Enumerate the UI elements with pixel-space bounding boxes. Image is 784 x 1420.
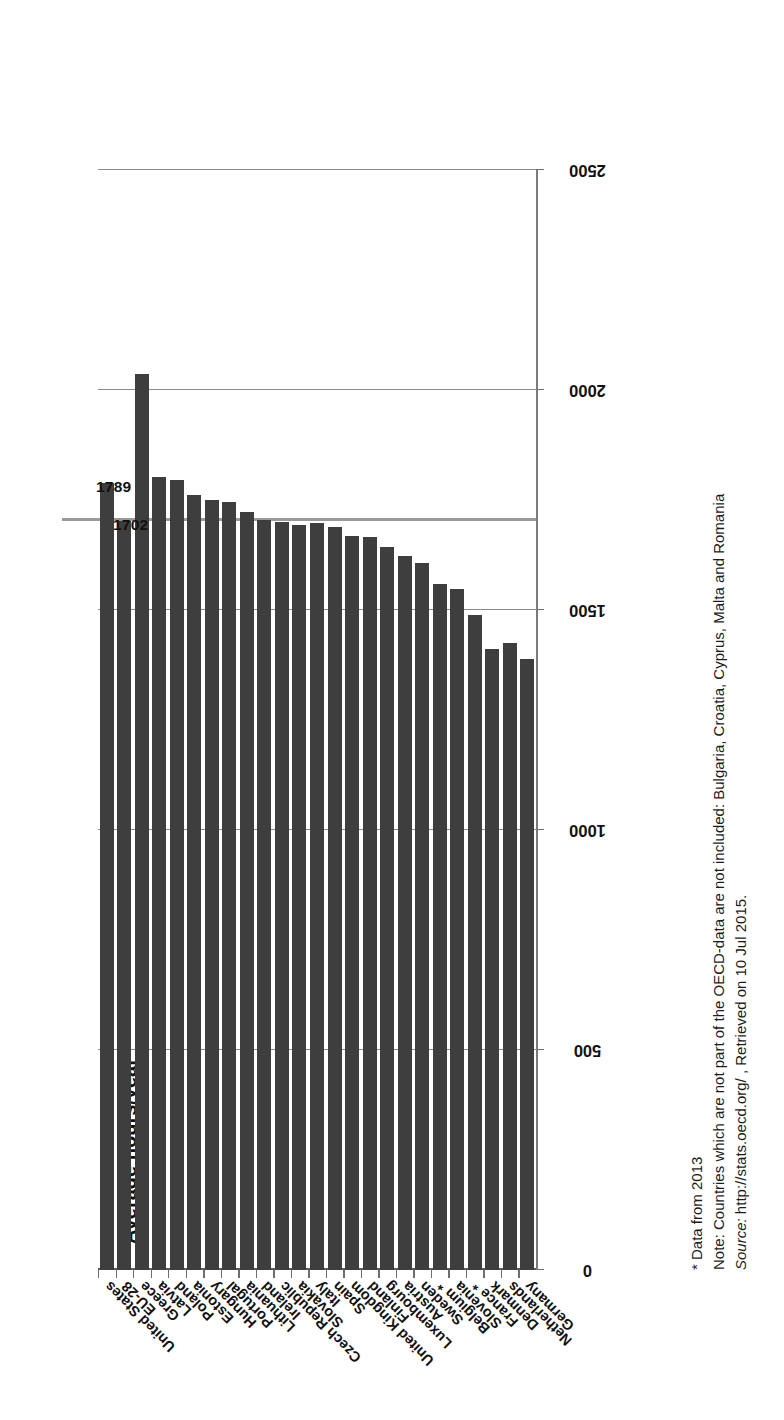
bar[interactable]: [187, 495, 201, 1270]
axis-tick-label: 0: [558, 1261, 618, 1280]
bar[interactable]: [363, 537, 377, 1270]
bar-value-label: 1702: [113, 516, 148, 534]
category-tick: [291, 1270, 292, 1278]
bar[interactable]: [275, 522, 289, 1270]
category-tick: [151, 1270, 152, 1278]
gridline: [98, 389, 536, 390]
category-tick: [116, 1270, 117, 1278]
bar[interactable]: [310, 523, 324, 1270]
category-tick: [168, 1270, 169, 1278]
bar[interactable]: [117, 521, 131, 1270]
bar[interactable]: [485, 649, 499, 1270]
category-axis-line: [536, 170, 538, 1270]
axis-tick-label: 2000: [558, 381, 618, 400]
category-tick: [466, 1270, 467, 1278]
bar[interactable]: [450, 589, 464, 1270]
category-tick: [133, 1270, 134, 1278]
bar[interactable]: [152, 477, 166, 1270]
axis-tick-label: 1000: [558, 821, 618, 840]
bar-value-label: 1789: [96, 478, 131, 496]
axis-tick-label: 1500: [558, 601, 618, 620]
category-tick: [361, 1270, 362, 1278]
bar[interactable]: [433, 584, 447, 1270]
category-tick: [396, 1270, 397, 1278]
bar[interactable]: [222, 502, 236, 1270]
category-tick: [413, 1270, 414, 1278]
bar[interactable]: [170, 480, 184, 1270]
category-tick: [186, 1270, 187, 1278]
chart-page: Average hours/year 05001000150020002500G…: [0, 0, 784, 1420]
source-word: Source:: [732, 1218, 749, 1270]
bar[interactable]: [205, 500, 219, 1270]
footnote-asterisk: * Data from 2013: [686, 120, 708, 1270]
category-tick: [483, 1270, 484, 1278]
category-tick: [203, 1270, 204, 1278]
gridline: [98, 169, 536, 170]
bar[interactable]: [520, 659, 534, 1270]
bar[interactable]: [468, 615, 482, 1270]
footnote-source: Source: http://stats.oecd.org/ , Retriev…: [730, 120, 752, 1270]
bar[interactable]: [345, 536, 359, 1270]
category-tick: [273, 1270, 274, 1278]
bar[interactable]: [135, 374, 149, 1270]
category-tick: [221, 1270, 222, 1278]
bar[interactable]: [240, 512, 254, 1270]
axis-tick-label: 500: [558, 1041, 618, 1060]
category-tick: [501, 1270, 502, 1278]
source-url: http://stats.oecd.org/ , Retrieved on 10…: [732, 895, 749, 1219]
figure: Average hours/year 05001000150020002500G…: [0, 0, 784, 1420]
bar[interactable]: [398, 556, 412, 1270]
bar[interactable]: [328, 527, 342, 1270]
category-tick: [238, 1270, 239, 1278]
category-tick: [326, 1270, 327, 1278]
category-tick: [448, 1270, 449, 1278]
bar[interactable]: [503, 643, 517, 1270]
bar[interactable]: [292, 525, 306, 1270]
bar[interactable]: [100, 483, 114, 1270]
category-tick: [518, 1270, 519, 1278]
category-tick: [378, 1270, 379, 1278]
category-tick: [256, 1270, 257, 1278]
plot-area: 05001000150020002500GermanyNetherlandsDe…: [98, 170, 536, 1270]
footnotes: * Data from 2013 Note: Countries which a…: [686, 120, 752, 1270]
bar[interactable]: [257, 520, 271, 1270]
bar[interactable]: [415, 563, 429, 1270]
category-tick: [98, 1270, 99, 1278]
category-tick: [343, 1270, 344, 1278]
category-tick: [308, 1270, 309, 1278]
bar[interactable]: [380, 547, 394, 1270]
footnote-note: Note: Countries which are not part of th…: [708, 120, 730, 1270]
axis-tick-label: 2500: [558, 161, 618, 180]
rotated-figure-wrapper: Average hours/year 05001000150020002500G…: [0, 0, 784, 1420]
category-tick: [431, 1270, 432, 1278]
